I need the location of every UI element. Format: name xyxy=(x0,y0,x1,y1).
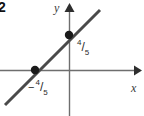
fraction-negative-four-fifths: −4/5 xyxy=(28,80,48,96)
y-axis-arrowhead-icon xyxy=(65,3,75,12)
y-intercept-value-label: 4/5 xyxy=(76,38,89,56)
plotted-line xyxy=(5,10,100,105)
x-axis-label: x xyxy=(131,82,136,94)
point-x-intercept xyxy=(31,66,39,74)
x-axis-arrowhead-icon xyxy=(134,66,142,76)
x-axis xyxy=(0,66,142,76)
fraction-denominator: 5 xyxy=(85,48,89,57)
fraction-denominator: 5 xyxy=(43,88,47,97)
y-axis xyxy=(65,3,75,116)
problem-number: 2 xyxy=(0,0,6,14)
y-axis-label: y xyxy=(54,2,59,14)
fraction-four-fifths: 4/5 xyxy=(76,40,89,56)
point-y-intercept xyxy=(65,31,73,39)
fraction-numerator: 4 xyxy=(77,38,81,47)
fraction-numerator: 4 xyxy=(35,78,39,87)
x-intercept-value-label: −4/5 xyxy=(28,78,48,96)
graph-figure: 2 y x 4/5 −4/5 xyxy=(0,0,144,116)
coordinate-plane-svg xyxy=(0,0,144,116)
